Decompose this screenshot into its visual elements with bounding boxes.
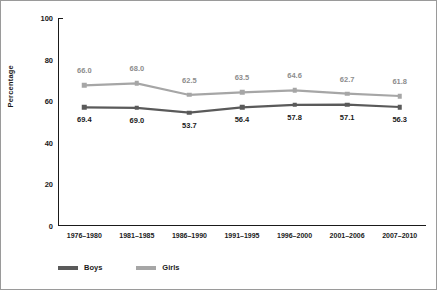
chart-figure: Percentage 020406080100 1976–19801981–19… (0, 0, 437, 290)
legend-item-girls[interactable]: Girls (136, 263, 179, 272)
data-point-label: 69.0 (130, 116, 145, 125)
data-point-marker (292, 103, 297, 108)
legend-label: Boys (84, 263, 102, 272)
legend-item-boys[interactable]: Boys (58, 263, 102, 272)
chart-legend: BoysGirls (58, 263, 179, 272)
data-point-label: 56.3 (392, 115, 407, 124)
data-point-marker (240, 90, 245, 95)
legend-label: Girls (162, 263, 179, 272)
x-tick-label: 1996–2000 (277, 232, 312, 239)
data-point-marker (135, 81, 140, 86)
data-point-label: 57.8 (287, 113, 302, 122)
data-point-label: 64.6 (287, 71, 302, 80)
data-point-marker (397, 105, 402, 110)
x-tick-label: 2001–2006 (330, 232, 365, 239)
legend-swatch-icon (136, 266, 156, 270)
data-point-marker (135, 106, 140, 111)
data-point-marker (187, 93, 192, 98)
x-tick-label: 1981–1985 (119, 232, 154, 239)
x-tick-label: 2007–2010 (382, 232, 417, 239)
data-point-marker (292, 88, 297, 93)
data-point-label: 62.7 (340, 75, 355, 84)
x-tick-label: 1986–1990 (172, 232, 207, 239)
data-point-marker (240, 105, 245, 110)
plot-area: 020406080100 1976–19801981–19851986–1990… (58, 18, 426, 226)
y-tick-label: 40 (45, 138, 53, 147)
data-point-label: 53.7 (182, 121, 197, 130)
data-point-label: 69.4 (77, 115, 92, 124)
data-point-marker (397, 94, 402, 99)
y-tick-label: 20 (45, 180, 53, 189)
data-point-label: 63.5 (235, 73, 250, 82)
y-axis-title: Percentage (6, 94, 15, 108)
data-point-label: 66.0 (77, 66, 92, 75)
data-point-label: 56.4 (235, 115, 250, 124)
y-tick-label: 100 (40, 14, 53, 23)
x-tick-label: 1991–1995 (224, 232, 259, 239)
data-point-label: 62.5 (182, 76, 197, 85)
data-point-marker (345, 91, 350, 96)
data-point-marker (345, 102, 350, 107)
legend-swatch-icon (58, 266, 78, 270)
data-point-marker (82, 83, 87, 88)
data-point-label: 57.1 (340, 113, 355, 122)
data-point-label: 61.8 (392, 77, 407, 86)
y-tick-label: 60 (45, 97, 53, 106)
data-point-marker (187, 110, 192, 115)
x-tick-label: 1976–1980 (67, 232, 102, 239)
y-tick-label: 80 (45, 55, 53, 64)
y-tick-label: 0 (49, 222, 53, 231)
data-point-label: 68.0 (130, 64, 145, 73)
data-point-marker (82, 105, 87, 110)
